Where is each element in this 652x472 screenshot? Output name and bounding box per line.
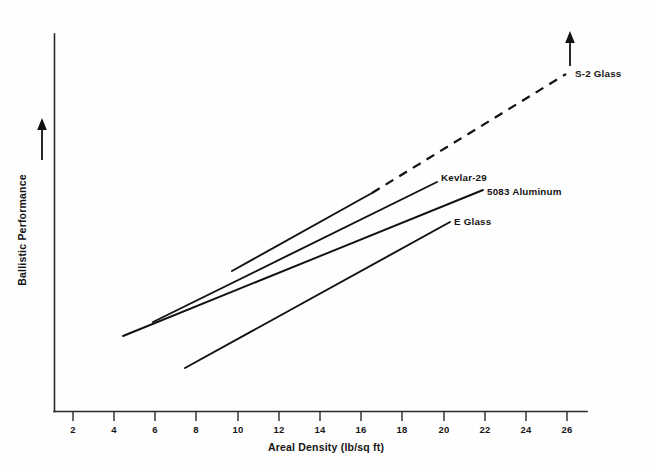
series-line-s2-glass-solid [232, 193, 372, 271]
x-tick-label-24: 24 [511, 424, 541, 435]
y-axis-direction-arrow [37, 118, 47, 160]
chart-figure: 2 4 6 8 10 12 14 16 18 20 22 24 26 Areal… [0, 0, 652, 472]
x-tick-label-2: 2 [58, 424, 88, 435]
x-tick-label-12: 12 [264, 424, 294, 435]
x-axis-title: Areal Density (lb/sq ft) [0, 441, 652, 453]
x-tick-marks [73, 411, 567, 421]
series-line-5083-aluminum [123, 190, 483, 336]
y-axis-title-wrap: Ballistic Performance [8, 120, 38, 350]
series-label-kevlar-29: Kevlar-29 [441, 172, 487, 183]
x-tick-label-6: 6 [140, 424, 170, 435]
x-tick-label-14: 14 [305, 424, 335, 435]
x-tick-label-16: 16 [346, 424, 376, 435]
x-tick-label-8: 8 [181, 424, 211, 435]
x-tick-label-18: 18 [387, 424, 417, 435]
s2-glass-up-arrow [565, 31, 575, 66]
x-tick-label-26: 26 [552, 424, 582, 435]
x-tick-label-4: 4 [99, 424, 129, 435]
series-label-5083-aluminum: 5083 Aluminum [487, 186, 562, 197]
series-s2-glass [232, 74, 566, 271]
series-5083-aluminum [123, 190, 483, 336]
chart-plot-area [0, 0, 652, 472]
x-tick-label-22: 22 [470, 424, 500, 435]
series-label-s2-glass: S-2 Glass [575, 68, 621, 79]
x-tick-label-10: 10 [223, 424, 253, 435]
x-tick-label-20: 20 [429, 424, 459, 435]
series-label-e-glass: E Glass [454, 216, 491, 227]
y-axis-title: Ballistic Performance [16, 130, 28, 330]
